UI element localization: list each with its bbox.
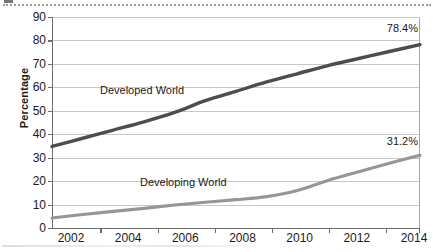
line-chart: Percentage 90 80 70 60 50 40 30 20 10 0 … xyxy=(0,0,433,252)
x-axis-ticks xyxy=(101,229,420,234)
plot-area xyxy=(0,0,433,252)
series-annotation-developed-world: Developed World xyxy=(100,84,184,96)
series-annotation-developing-world: Developing World xyxy=(140,176,227,188)
series-line-developing-world xyxy=(52,155,420,218)
value-label-developed-world: 78.4% xyxy=(348,22,418,34)
horizontal-gridlines xyxy=(52,18,420,206)
value-label-developing-world: 31.2% xyxy=(348,135,418,147)
y-axis-ticks xyxy=(48,18,52,229)
